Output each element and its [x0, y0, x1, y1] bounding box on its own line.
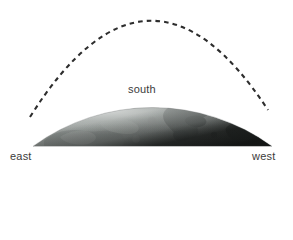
- label-south: south: [128, 83, 156, 95]
- label-west: west: [252, 150, 275, 162]
- label-east: east: [10, 150, 32, 162]
